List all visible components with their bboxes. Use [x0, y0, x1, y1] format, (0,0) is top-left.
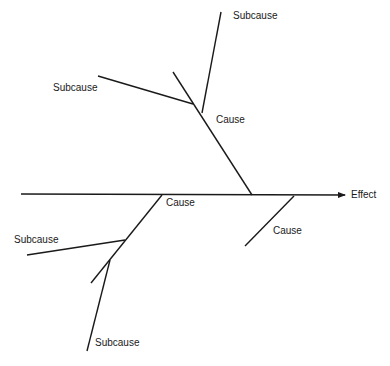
upper-left-subcause-label: Subcause: [53, 82, 97, 94]
bottom-subcause-label: Subcause: [95, 337, 139, 349]
upper-cause-line: [173, 72, 252, 195]
fishbone-diagram: Subcause Subcause Cause Effect Cause Cau…: [0, 0, 390, 366]
lower-left-cause-label: Cause: [166, 197, 195, 209]
lower-right-cause-label: Cause: [273, 225, 302, 237]
upper-cause-label: Cause: [216, 114, 245, 126]
top-subcause-line: [202, 12, 221, 113]
lower-left-subcause-label: Subcause: [14, 234, 58, 246]
main-spine-arrow: [21, 194, 345, 195]
effect-label: Effect: [351, 189, 376, 201]
lower-left-cause-line: [91, 195, 162, 283]
top-subcause-label: Subcause: [233, 10, 277, 22]
fishbone-lines: [0, 0, 390, 366]
lower-right-cause-line: [245, 196, 294, 246]
